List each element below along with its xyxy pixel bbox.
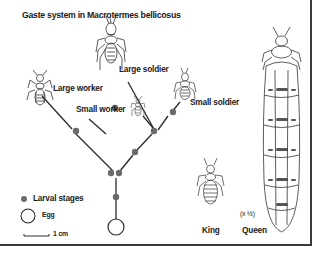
large-soldier-insect [96,16,126,70]
small-worker-insect [131,96,145,116]
label-small-soldier: Small soldier [190,97,239,107]
large-worker-insect [27,70,53,105]
egg-circle [108,219,124,235]
legend-larval-node-icon [21,196,27,202]
legend-egg-label: Egg [42,210,54,219]
caste-tree [0,0,319,259]
label-large-worker: Large worker [53,83,103,93]
label-large-soldier: Large soldier [119,64,169,74]
queen-insect [262,27,301,232]
legend-larval-stages-label: Larval stages [33,193,84,203]
label-queen: Queen [242,225,267,235]
node-small-worker [151,128,157,134]
label-small-worker: Small worker [76,104,125,114]
node-fork-right [116,170,122,176]
node-fork-left [108,170,114,176]
king-insect [197,158,224,204]
label-king: King [202,225,220,235]
small-soldier-insect [174,68,196,100]
larval-stage-nodes [73,105,176,200]
scale-bar-icon [24,234,49,236]
node-large-worker [73,128,79,134]
label-queen-scale: (x ½) [240,209,255,218]
node-right-branch [132,149,138,155]
node-trunk [113,194,119,200]
legend-scale-label: 1 cm [53,229,68,238]
legend-egg-icon [21,209,35,223]
node-small-soldier [170,109,176,115]
